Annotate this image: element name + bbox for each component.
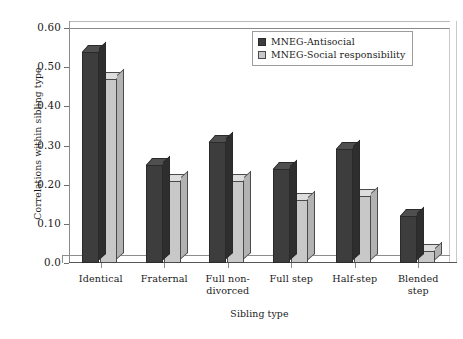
- y-axis-tick-mark: [64, 263, 69, 264]
- bar-side-face: [226, 132, 233, 260]
- x-axis-tick-label: Full non-divorced: [195, 273, 261, 296]
- bar: [146, 165, 163, 263]
- legend-item-label: MNEG-Antisocial: [271, 36, 355, 47]
- dark-square-swatch: [258, 38, 266, 46]
- light-square-swatch: [258, 51, 266, 59]
- bar-side-face: [99, 42, 106, 260]
- bar-front-face: [209, 142, 226, 263]
- x-axis-tick-label-line: step: [385, 285, 451, 297]
- bar: [273, 169, 290, 263]
- bar-front-face: [82, 52, 99, 264]
- y-axis-tick-label: 0.30: [25, 139, 61, 151]
- legend: MNEG-AntisocialMNEG-Social responsibilit…: [252, 31, 413, 66]
- x-axis-tick-label: Identical: [68, 273, 134, 285]
- x-axis-title: Sibling type: [69, 308, 450, 319]
- y-axis-tick-label: 0.40: [25, 99, 61, 111]
- legend-item: MNEG-Antisocial: [258, 35, 405, 48]
- x-axis-tick-label-line: Identical: [68, 273, 134, 285]
- bar: [336, 149, 353, 263]
- x-axis-tick-label: Half-step: [322, 273, 388, 285]
- y-axis-tick-label: 0.50: [25, 60, 61, 72]
- bar: [82, 52, 99, 264]
- bar-side-face: [290, 159, 297, 259]
- x-axis-tick-label: Full step: [258, 273, 324, 285]
- x-axis-tick-label: Blendedstep: [385, 273, 451, 296]
- bar-side-face: [308, 191, 315, 260]
- legend-item: MNEG-Social responsibility: [258, 48, 405, 61]
- y-axis-tick-label: 0.0: [25, 256, 61, 268]
- y-axis-tick-label: 0.20: [25, 178, 61, 190]
- x-axis-tick-label-line: divorced: [195, 285, 261, 297]
- x-axis-tick-label: Fraternal: [131, 273, 197, 285]
- bar-side-face: [417, 206, 424, 259]
- x-axis-tick-label-line: Full non-: [195, 273, 261, 285]
- bar-side-face: [244, 171, 251, 260]
- bar-side-face: [163, 155, 170, 259]
- bar-side-face: [371, 187, 378, 260]
- bar-side-face: [353, 140, 360, 260]
- plot-frame-back-right-edge: [456, 21, 457, 263]
- plot-frame-back-top-edge: [69, 21, 450, 22]
- bar-side-face: [181, 171, 188, 260]
- x-axis-tick-label-line: Half-step: [322, 273, 388, 285]
- y-axis-tick-label: 0.10: [25, 217, 61, 229]
- x-axis-tick-label-line: Fraternal: [131, 273, 197, 285]
- bar-chart: Correlations within sibling type 0.00.10…: [0, 0, 463, 339]
- x-axis-tick-label-line: Full step: [258, 273, 324, 285]
- bar: [209, 142, 226, 263]
- bar-side-face: [117, 69, 124, 259]
- bar-front-face: [273, 169, 290, 263]
- legend-item-label: MNEG-Social responsibility: [271, 49, 405, 60]
- bar-front-face: [400, 216, 417, 263]
- bar: [400, 216, 417, 263]
- x-axis-tick-label-line: Blended: [385, 273, 451, 285]
- y-axis-tick-label: 0.60: [25, 21, 61, 33]
- bar-front-face: [336, 149, 353, 263]
- bar-front-face: [146, 165, 163, 263]
